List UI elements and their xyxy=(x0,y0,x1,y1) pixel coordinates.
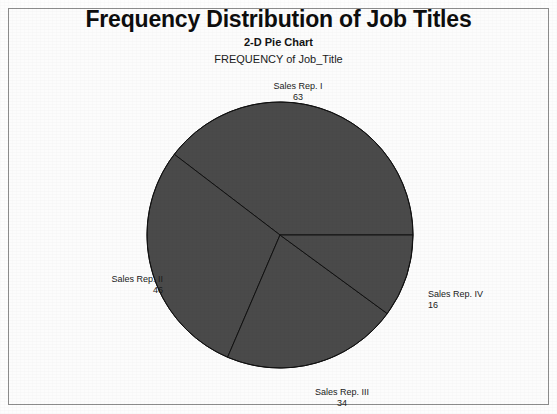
slice-label-value: 46 xyxy=(111,285,163,296)
slice-label-sales-rep-ii: Sales Rep. II 46 xyxy=(111,274,163,296)
pie-chart-area: Sales Rep. I 63 Sales Rep. II 46 Sales R… xyxy=(8,8,549,405)
chart-main-title: Frequency Distribution of Job Titles xyxy=(0,6,557,32)
pie-chart-svg xyxy=(8,8,549,405)
chart-sub-title: 2-D Pie Chart xyxy=(0,35,557,50)
chart-page: Frequency Distribution of Job Titles 2-D… xyxy=(0,0,557,414)
slice-label-sales-rep-iii: Sales Rep. III 34 xyxy=(315,387,369,409)
slice-label-name: Sales Rep. IV xyxy=(428,289,483,300)
slice-label-name: Sales Rep. III xyxy=(315,387,369,398)
slice-label-sales-rep-iv: Sales Rep. IV 16 xyxy=(428,289,483,311)
chart-axis-title: FREQUENCY of Job_Title xyxy=(0,52,557,67)
slice-label-name: Sales Rep. II xyxy=(111,274,163,285)
slice-label-name: Sales Rep. I xyxy=(273,81,322,92)
chart-title-block: Frequency Distribution of Job Titles 2-D… xyxy=(0,6,557,67)
slice-label-sales-rep-i: Sales Rep. I 63 xyxy=(273,81,322,103)
pie-slices-group xyxy=(147,102,413,368)
slice-label-value: 34 xyxy=(315,398,369,409)
slice-label-value: 16 xyxy=(428,300,483,311)
slice-label-value: 63 xyxy=(273,92,322,103)
